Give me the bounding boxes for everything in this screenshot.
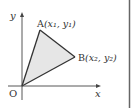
y-axis-arrow-icon xyxy=(20,12,24,17)
triangle-fill xyxy=(22,30,75,86)
y-axis-label: y xyxy=(9,10,16,21)
coordinate-diagram: y x O A(x₁, y₁) B(x₂, y₂) xyxy=(0,0,131,108)
point-a-label: A(x₁, y₁) xyxy=(36,18,76,29)
point-b-label: B(x₂, y₂) xyxy=(78,52,117,63)
origin-label: O xyxy=(9,88,17,99)
x-axis-label: x xyxy=(95,88,101,99)
